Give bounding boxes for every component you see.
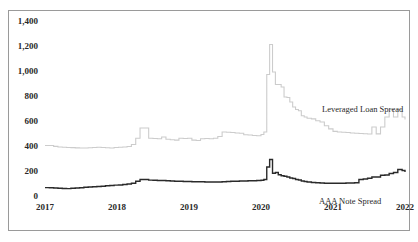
x-tick-label: 2022 <box>385 202 418 212</box>
y-tick-label: 400 <box>6 141 38 151</box>
y-tick-label: 600 <box>6 116 38 126</box>
x-tick-label: 2019 <box>169 202 209 212</box>
y-tick-label: 1,200 <box>6 41 38 51</box>
y-tick-label: 0 <box>6 191 38 201</box>
x-tick-label: 2018 <box>97 202 137 212</box>
y-tick-label: 200 <box>6 166 38 176</box>
series-label-aaa-note-spread: AAA Note Spread <box>319 196 381 206</box>
y-tick-label: 1,000 <box>6 66 38 76</box>
x-tick-label: 2017 <box>25 202 65 212</box>
y-tick-label: 1,400 <box>6 16 38 26</box>
y-tick-label: 800 <box>6 91 38 101</box>
series-aaa-note-spread <box>45 160 405 189</box>
series-leveraged-loan-spread <box>45 45 405 149</box>
series-label-leveraged-loan-spread: Leveraged Loan Spread <box>322 104 403 114</box>
chart-figure: 1,4001,2001,0008006004002000 20172018201… <box>0 0 418 242</box>
x-tick-label: 2020 <box>241 202 281 212</box>
